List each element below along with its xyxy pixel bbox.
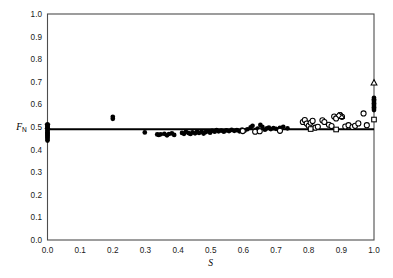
marker-open-square: [334, 127, 339, 132]
x-tick-label: 0.2: [107, 246, 119, 255]
y-tick-label: 0.7: [31, 78, 43, 87]
x-tick-label: 1.0: [368, 246, 380, 255]
marker-filled-circle: [250, 124, 255, 129]
x-tick-label: 0.7: [270, 246, 282, 255]
marker-open-square: [372, 117, 377, 122]
x-tick-label: 0.8: [303, 246, 315, 255]
x-tick-label: 0.5: [205, 246, 217, 255]
y-tick-label: 0.9: [31, 33, 43, 42]
y-tick-label: 0.8: [31, 55, 43, 64]
y-tick-label: 0.3: [31, 168, 43, 177]
plot-canvas: 0.00.10.20.30.40.50.60.70.80.91.0 0.00.1…: [0, 0, 393, 278]
marker-open-circle: [277, 128, 282, 133]
x-tick-label: 0.6: [238, 246, 250, 255]
marker-filled-circle: [172, 133, 177, 138]
x-tick-label: 0.4: [172, 246, 184, 255]
marker-filled-circle: [142, 130, 147, 135]
y-tick-label: 0.1: [31, 213, 43, 222]
x-tick-label: 0.0: [42, 246, 54, 255]
y-tick-label: 1.0: [31, 10, 43, 19]
y-tick-label: 0.5: [31, 123, 43, 132]
scatter-plot-figure: 0.00.10.20.30.40.50.60.70.80.91.0 0.00.1…: [0, 0, 393, 278]
series-cluster-at-s-one: [372, 95, 377, 112]
marker-open-square: [308, 127, 313, 132]
x-axis-title: S: [208, 257, 213, 268]
x-tick-label: 0.1: [74, 246, 86, 255]
marker-open-circle: [364, 123, 369, 128]
marker-filled-circle: [285, 126, 290, 131]
marker-open-circle: [257, 129, 262, 134]
plot-background: [0, 0, 393, 278]
x-tick-label: 0.9: [336, 246, 348, 255]
marker-open-circle: [310, 118, 315, 123]
marker-filled-circle: [110, 114, 115, 119]
marker-open-circle: [240, 129, 245, 134]
marker-filled-circle: [372, 95, 377, 100]
x-tick-label: 0.3: [140, 246, 152, 255]
marker-open-circle: [356, 121, 361, 126]
y-tick-label: 0.2: [31, 191, 43, 200]
y-tick-label: 0.0: [31, 236, 43, 245]
marker-open-circle: [315, 124, 320, 129]
marker-open-circle: [361, 111, 366, 116]
y-tick-label: 0.6: [31, 100, 43, 109]
y-tick-label: 0.4: [31, 146, 43, 155]
